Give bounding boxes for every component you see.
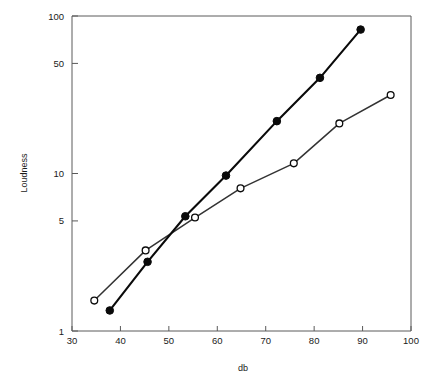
y-tick-label-1: 1: [59, 326, 64, 337]
x-tick-label-60: 60: [212, 335, 223, 346]
data-point-filled-circles-0: [106, 307, 114, 315]
data-point-open-circles-2: [192, 214, 199, 221]
loudness-vs-db-chart: 30405060708090100 151050100 db Loudness: [0, 0, 434, 382]
data-point-filled-circles-3: [222, 172, 230, 180]
y-tick-label-50: 50: [53, 58, 64, 69]
y-tick-label-100: 100: [48, 11, 64, 22]
chart-background: [0, 0, 434, 382]
data-point-open-circles-1: [142, 247, 149, 254]
data-point-filled-circles-5: [316, 74, 324, 82]
x-tick-label-40: 40: [115, 335, 126, 346]
x-tick-label-50: 50: [164, 335, 175, 346]
data-point-open-circles-0: [91, 297, 98, 304]
figure-container: 30405060708090100 151050100 db Loudness: [0, 0, 434, 382]
x-tick-label-100: 100: [403, 335, 419, 346]
y-tick-label-5: 5: [59, 215, 64, 226]
data-point-open-circles-3: [237, 185, 244, 192]
data-point-filled-circles-6: [357, 26, 365, 34]
data-point-open-circles-6: [387, 92, 394, 99]
data-point-filled-circles-4: [273, 117, 281, 125]
x-tick-label-30: 30: [67, 335, 78, 346]
data-point-filled-circles-1: [144, 258, 152, 266]
x-tick-label-90: 90: [357, 335, 368, 346]
data-point-open-circles-4: [290, 160, 297, 167]
y-axis-title: Loudness: [19, 153, 29, 193]
y-tick-label-10: 10: [53, 168, 64, 179]
data-point-open-circles-5: [336, 120, 343, 127]
x-tick-label-80: 80: [309, 335, 320, 346]
x-tick-label-70: 70: [260, 335, 271, 346]
data-point-filled-circles-2: [182, 212, 190, 220]
x-axis-title: db: [238, 363, 248, 373]
